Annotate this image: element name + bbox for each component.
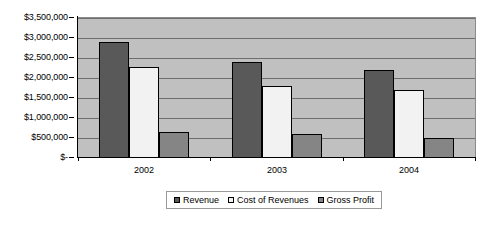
- y-axis-tick-mark: [69, 77, 74, 78]
- chart-legend: RevenueCost of RevenuesGross Profit: [166, 191, 382, 209]
- bar-revenue-2004: [364, 70, 394, 158]
- bar-revenue-2003: [232, 62, 262, 158]
- legend-label: Revenue: [183, 195, 219, 205]
- y-axis-tick-label: $3,500,000: [24, 12, 68, 22]
- legend-item-gross-profit: Gross Profit: [318, 195, 375, 205]
- bar-cost-of-revenues-2003: [262, 86, 292, 158]
- legend-item-revenue: Revenue: [174, 195, 219, 205]
- bar-gross-profit-2002: [159, 132, 189, 158]
- y-axis-line: [77, 16, 78, 158]
- legend-swatch-icon: [318, 197, 324, 203]
- x-axis-tick-mark: [210, 157, 211, 161]
- y-axis-tick-mark: [69, 17, 74, 18]
- y-axis-tick-label: $-: [60, 152, 68, 162]
- legend-item-cost-of-revenues: Cost of Revenues: [228, 195, 309, 205]
- y-axis-tick-mark: [69, 37, 74, 38]
- y-axis-tick-mark: [69, 57, 74, 58]
- bar-chart: $-$500,000$1,000,000$1,500,000$2,000,000…: [0, 0, 487, 225]
- y-axis-tick-label: $2,000,000: [24, 72, 68, 82]
- legend-swatch-icon: [228, 197, 234, 203]
- x-axis-line: [77, 157, 476, 158]
- y-axis-tick-label: $1,500,000: [24, 92, 68, 102]
- x-axis-tick-mark: [475, 157, 476, 161]
- y-axis: $-$500,000$1,000,000$1,500,000$2,000,000…: [0, 0, 74, 225]
- legend-label: Cost of Revenues: [237, 195, 309, 205]
- bar-revenue-2002: [99, 42, 129, 158]
- bar-cost-of-revenues-2002: [129, 67, 159, 158]
- legend-label: Gross Profit: [327, 195, 375, 205]
- x-axis-tick-label: 2002: [134, 165, 154, 175]
- plot-area: [78, 17, 476, 158]
- x-axis-tick-mark: [78, 157, 79, 161]
- x-axis-tick-label: 2004: [399, 165, 419, 175]
- bar-gross-profit-2003: [292, 134, 322, 158]
- y-axis-tick-mark: [69, 97, 74, 98]
- y-axis-tick-label: $2,500,000: [24, 52, 68, 62]
- y-axis-tick-mark: [69, 157, 74, 158]
- bars-layer: [78, 18, 475, 158]
- bar-cost-of-revenues-2004: [394, 90, 424, 158]
- y-axis-tick-label: $3,000,000: [24, 32, 68, 42]
- y-axis-tick-label: $500,000: [31, 132, 68, 142]
- y-axis-tick-mark: [69, 117, 74, 118]
- x-axis-tick-mark: [343, 157, 344, 161]
- y-axis-tick-label: $1,000,000: [24, 112, 68, 122]
- legend-swatch-icon: [174, 197, 180, 203]
- bar-gross-profit-2004: [424, 138, 454, 158]
- y-axis-tick-mark: [69, 137, 74, 138]
- x-axis-tick-label: 2003: [267, 165, 287, 175]
